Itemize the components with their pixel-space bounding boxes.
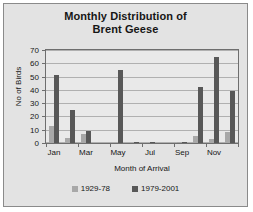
x-tick-mark	[206, 144, 207, 147]
chart-title-line-1: Monthly Distribution of	[4, 10, 247, 23]
y-tick-label: 70	[30, 46, 39, 55]
bar-feb-series-0	[65, 138, 70, 143]
x-tick-label-sep: Sep	[175, 148, 189, 157]
bar-nov-series-1	[214, 57, 219, 143]
plot-area	[45, 49, 239, 144]
chart-title: Monthly Distribution of Brent Geese	[4, 10, 247, 36]
x-tick-mark	[238, 144, 239, 147]
bar-may-series-1	[118, 70, 123, 143]
y-tick-label: 20	[30, 112, 39, 121]
bar-jun-series-1	[134, 142, 139, 143]
y-tick-label: 60	[30, 59, 39, 68]
bar-jan-series-1	[54, 75, 59, 143]
x-tick-mark	[110, 144, 111, 147]
x-tick-label-may: May	[110, 148, 125, 157]
bar-feb-series-1	[70, 110, 75, 143]
bar-oct-series-0	[193, 136, 198, 143]
y-tick-label: 50	[30, 72, 39, 81]
x-axis-ticks: JanMarMayJulSepNov	[45, 144, 239, 166]
x-axis-title: Month of Arrival	[45, 164, 239, 173]
y-tick-label: 0	[35, 139, 39, 148]
x-tick-label-mar: Mar	[79, 148, 93, 157]
x-tick-mark	[174, 144, 175, 147]
legend-swatch-icon-series-0	[72, 186, 78, 192]
y-tick-label: 10	[30, 125, 39, 134]
bar-dec-series-1	[230, 91, 235, 143]
chart-container: Monthly Distribution of Brent Geese No o…	[3, 3, 248, 207]
legend-label-series-1: 1979-2001	[141, 184, 179, 193]
bars-layer	[46, 50, 238, 143]
bar-mar-series-1	[86, 131, 91, 143]
legend-item-series-0: 1929-78	[72, 184, 110, 193]
x-tick-label-jan: Jan	[48, 148, 61, 157]
y-axis-ticks: 706050403020100	[4, 49, 45, 144]
bar-jul-series-1	[150, 142, 155, 143]
legend-item-series-1: 1979-2001	[132, 184, 179, 193]
x-tick-mark	[142, 144, 143, 147]
bar-dec-series-0	[225, 132, 230, 143]
bar-sep-series-1	[182, 142, 187, 143]
bar-jan-series-0	[49, 126, 54, 143]
bar-nov-series-0	[209, 139, 214, 143]
y-tick-label: 40	[30, 85, 39, 94]
bar-oct-series-1	[198, 87, 203, 143]
chart-title-line-2: Brent Geese	[4, 23, 247, 36]
x-tick-mark	[46, 144, 47, 147]
x-tick-mark	[78, 144, 79, 147]
x-tick-label-nov: Nov	[207, 148, 221, 157]
legend-swatch-icon-series-1	[132, 186, 138, 192]
bar-sep-series-0	[177, 142, 182, 143]
chart-legend: 1929-78 1979-2001	[4, 184, 247, 193]
y-tick-label: 30	[30, 99, 39, 108]
x-tick-label-jul: Jul	[145, 148, 155, 157]
bar-mar-series-0	[81, 134, 86, 143]
legend-label-series-0: 1929-78	[81, 184, 110, 193]
